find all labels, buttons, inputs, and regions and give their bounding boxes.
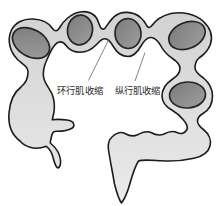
intestine-diagram: 环行肌收缩 纵行肌收缩 bbox=[0, 0, 216, 206]
diagram-canvas: 环行肌收缩 纵行肌收缩 bbox=[0, 0, 216, 206]
leader-line-longitudinal-muscle bbox=[135, 53, 145, 82]
label-circular-muscle: 环行肌收缩 bbox=[57, 85, 103, 96]
label-longitudinal-muscle: 纵行肌收缩 bbox=[115, 85, 161, 96]
